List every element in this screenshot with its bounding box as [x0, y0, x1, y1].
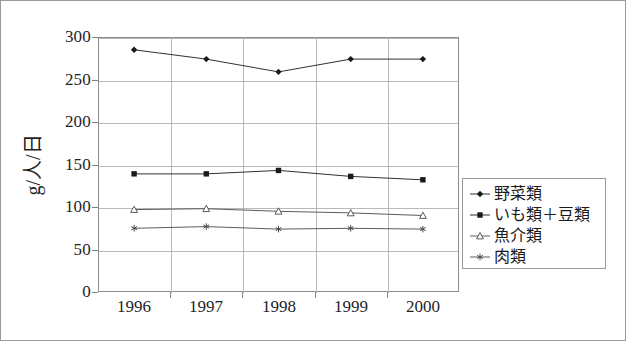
- plot-area: [98, 37, 459, 292]
- legend-marker-icon: [469, 188, 491, 200]
- legend-label: 魚介類: [494, 228, 542, 244]
- data-point-filled-square: [477, 212, 482, 217]
- legend-item-2[interactable]: 魚介類: [469, 225, 600, 246]
- legend-marker-icon: [469, 230, 491, 242]
- x-tick-label-1996: 1996: [99, 298, 169, 315]
- grid-line-100: [99, 208, 458, 209]
- x-tick-label-1997: 1997: [171, 298, 241, 315]
- y-tick-label-300: 300: [39, 28, 91, 45]
- legend-item-0[interactable]: 野菜類: [469, 183, 600, 204]
- y-tick-label-50: 50: [39, 241, 91, 258]
- category-separator: [316, 38, 317, 293]
- grid-line-300: [99, 38, 458, 39]
- y-tick-label-200: 200: [39, 113, 91, 130]
- grid-line-250: [99, 81, 458, 82]
- legend-label: 野菜類: [494, 186, 542, 202]
- grid-line-150: [99, 166, 458, 167]
- x-tick-label-1998: 1998: [244, 298, 314, 315]
- legend-item-3[interactable]: 肉類: [469, 246, 600, 267]
- y-tick-mark: [92, 292, 98, 293]
- x-tick-label-2000: 2000: [388, 298, 458, 315]
- y-tick-label-250: 250: [39, 71, 91, 88]
- category-separator: [243, 38, 244, 293]
- chart-legend: 野菜類いも類＋豆類魚介類肉類: [462, 178, 606, 269]
- legend-item-1[interactable]: いも類＋豆類: [469, 204, 600, 225]
- category-separator: [388, 38, 389, 293]
- legend-marker-icon: [469, 209, 491, 221]
- x-tick-label-1999: 1999: [316, 298, 386, 315]
- y-tick-label-150: 150: [39, 156, 91, 173]
- y-tick-label-100: 100: [39, 198, 91, 215]
- legend-marker-icon: [469, 251, 491, 263]
- grid-line-50: [99, 251, 458, 252]
- legend-label: 肉類: [494, 249, 526, 265]
- legend-label: いも類＋豆類: [494, 207, 590, 223]
- category-separator: [171, 38, 172, 293]
- x-tick-mark: [242, 292, 243, 298]
- chart-figure: g/人/日 300250200150100500 199619971998199…: [0, 0, 626, 341]
- data-point-filled-diamond: [477, 190, 483, 196]
- y-tick-label-0: 0: [39, 283, 91, 300]
- grid-line-200: [99, 123, 458, 124]
